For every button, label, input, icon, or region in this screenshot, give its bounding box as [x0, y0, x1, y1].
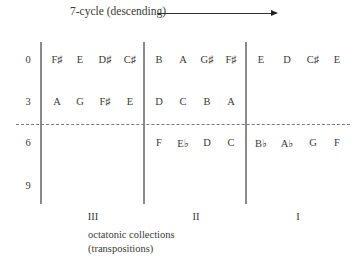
note-cell: D	[148, 96, 170, 107]
caption-line-2: (transpositions)	[88, 242, 153, 256]
note-cell: F♯	[94, 96, 116, 107]
note-cell: E♭	[172, 137, 194, 149]
note-cell: C♯	[119, 54, 141, 65]
arrow-right-icon	[271, 10, 278, 16]
note-cell: E	[326, 54, 348, 65]
separator-line-left	[40, 42, 42, 204]
note-cell: E	[250, 54, 272, 65]
row-label-9: 9	[21, 180, 35, 191]
note-cell: B	[196, 96, 218, 107]
note-cell: F	[148, 137, 170, 148]
separator-line-right	[245, 42, 247, 204]
arrow-line	[157, 13, 275, 14]
note-cell: E	[119, 96, 141, 107]
note-cell: F♯	[46, 54, 68, 65]
note-cell: C♯	[302, 54, 324, 65]
tritone-divider-dashed	[16, 124, 350, 125]
collection-label-II: II	[181, 211, 211, 222]
note-cell: A♭	[276, 137, 298, 149]
collection-label-I: I	[283, 211, 313, 222]
note-cell: E	[69, 54, 91, 65]
note-cell: A	[220, 96, 242, 107]
note-cell: D	[196, 137, 218, 148]
note-cell: D♯	[94, 54, 116, 65]
note-cell: A	[46, 96, 68, 107]
note-cell: G♯	[196, 54, 218, 65]
note-cell: F♯	[220, 54, 242, 65]
note-cell: F	[326, 137, 348, 148]
note-cell: C	[172, 96, 194, 107]
row-label-3: 3	[21, 96, 35, 107]
caption-line-1: octatonic collections	[88, 228, 175, 242]
row-label-0: 0	[21, 54, 35, 65]
note-cell: B	[148, 54, 170, 65]
note-cell: G	[302, 137, 324, 148]
note-cell: G	[69, 96, 91, 107]
separator-line-middle	[143, 42, 145, 204]
cycle-title: 7-cycle (descending)	[70, 5, 166, 17]
note-cell: A	[172, 54, 194, 65]
collection-label-III: III	[78, 211, 108, 222]
note-cell: B♭	[250, 137, 272, 149]
note-cell: D	[276, 54, 298, 65]
note-cell: C	[220, 137, 242, 148]
row-label-6: 6	[21, 137, 35, 148]
